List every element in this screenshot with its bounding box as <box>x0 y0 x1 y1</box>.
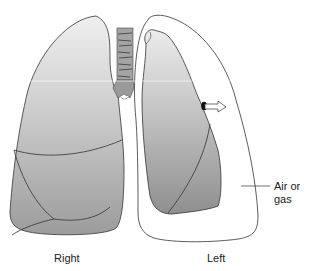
label-air-or-gas: Air or gas <box>274 180 313 206</box>
trachea <box>113 28 134 99</box>
right-lung <box>10 16 124 235</box>
lungs-diagram <box>0 0 313 271</box>
label-left: Left <box>207 252 225 265</box>
label-right: Right <box>54 252 80 265</box>
